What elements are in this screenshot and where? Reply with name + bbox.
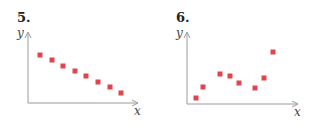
chart-6-plot: y x: [161, 0, 322, 127]
data-point: [119, 91, 124, 96]
chart-5: 5. y x: [0, 0, 161, 127]
data-point: [228, 74, 233, 79]
chart-6: 6. y x: [161, 0, 322, 127]
y-axis-label: y: [16, 26, 24, 40]
data-point: [73, 69, 78, 74]
data-point: [96, 80, 101, 85]
data-point: [271, 50, 276, 55]
chart-5-plot: y x: [0, 0, 161, 127]
x-axis-label: x: [294, 105, 301, 119]
data-points: [194, 50, 276, 101]
data-point: [194, 96, 199, 101]
data-point: [253, 86, 258, 91]
data-point: [38, 53, 43, 58]
data-points: [38, 53, 124, 96]
y-axis-label: y: [175, 26, 183, 40]
data-point: [50, 58, 55, 63]
data-point: [61, 64, 66, 69]
data-point: [218, 72, 223, 77]
data-point: [108, 85, 113, 90]
data-point: [84, 74, 89, 79]
data-point: [262, 76, 267, 81]
data-point: [201, 85, 206, 90]
data-point: [237, 81, 242, 86]
x-axis-label: x: [134, 104, 141, 118]
